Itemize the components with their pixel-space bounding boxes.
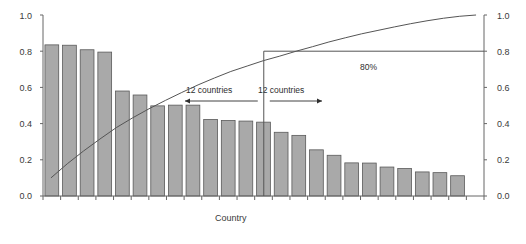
- bar: [327, 155, 341, 196]
- bar: [362, 163, 376, 196]
- bar: [133, 95, 147, 196]
- plot-area: [0, 0, 526, 244]
- bar: [274, 132, 288, 196]
- bar: [380, 167, 394, 196]
- bar: [151, 106, 165, 196]
- bar: [63, 45, 77, 196]
- bar: [204, 119, 218, 196]
- bar: [433, 173, 447, 196]
- bar: [451, 176, 465, 196]
- bar: [239, 121, 253, 196]
- bar: [398, 168, 412, 196]
- bar: [345, 163, 359, 196]
- left-span-arrowhead: [185, 98, 190, 103]
- bar: [98, 52, 112, 196]
- bar: [221, 121, 235, 196]
- bar: [292, 135, 306, 196]
- bar: [415, 172, 429, 196]
- pareto-chart: 1.0 0.8 0.6 0.4 0.2 0.0 1.0 0.8 0.6 0.4 …: [0, 0, 526, 244]
- bar-series: [45, 45, 464, 196]
- bar: [80, 50, 94, 196]
- bar: [116, 91, 130, 196]
- right-span-arrowhead: [317, 98, 322, 103]
- bar: [310, 150, 324, 196]
- bar: [186, 105, 200, 196]
- bar: [168, 105, 182, 196]
